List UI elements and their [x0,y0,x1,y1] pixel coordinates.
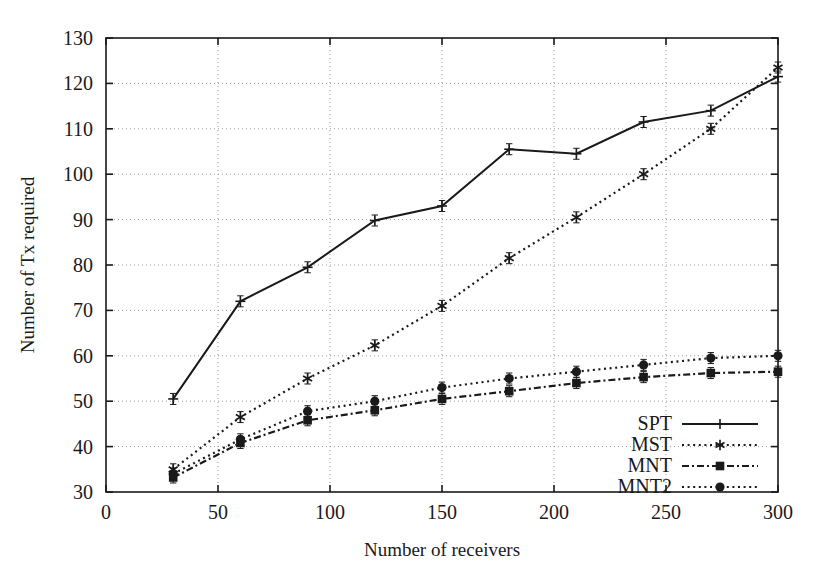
data-point-marker-circle [773,351,782,360]
data-point-marker-circle [236,435,245,444]
data-point-marker-star [572,212,581,222]
data-point-marker-plus [571,149,581,159]
y-axis-tick-label: 120 [63,72,93,94]
series-line-spt [173,77,778,399]
x-axis-tick-label: 200 [539,501,569,523]
y-axis-tick-label: 70 [73,299,93,321]
x-axis-tick-label: 50 [208,501,228,523]
chart-canvas: 3040506070809010011012013005010015020025… [0,0,816,586]
data-point-marker-square [505,387,514,396]
data-point-marker-square [774,367,783,376]
series-spt [168,71,783,404]
data-point-marker-plus [715,419,725,429]
y-axis-tick-label: 50 [73,390,93,412]
x-axis-title: Number of receivers [364,539,520,560]
data-series-layer [168,62,783,483]
series-mnt2 [169,350,783,479]
data-point-marker-star [706,124,715,134]
data-point-marker-plus [706,106,716,116]
data-point-marker-plus [639,117,649,127]
x-axis-tick-label: 150 [427,501,457,523]
data-point-marker-star [370,340,379,350]
y-axis-tick-label: 80 [73,254,93,276]
legend-label-mst: MST [631,433,672,455]
series-line-mst [173,68,778,470]
data-point-marker-circle [715,482,724,491]
data-point-marker-square [572,379,581,388]
data-point-marker-star [303,373,312,383]
x-axis-tick-label: 100 [315,501,345,523]
y-axis-tick-label: 30 [73,481,93,503]
legend-label-mnt: MNT [628,454,672,476]
y-axis-tick-label: 100 [63,163,93,185]
data-point-marker-circle [706,353,715,362]
x-axis-tick-label: 0 [101,501,111,523]
data-point-marker-circle [303,407,312,416]
data-point-marker-square [716,462,725,471]
chart-figure: 3040506070809010011012013005010015020025… [0,0,816,586]
chart-legend: SPTMSTMNTMNT2 [618,412,758,497]
data-point-marker-star [505,253,514,263]
data-point-marker-circle [639,360,648,369]
y-axis-tick-label: 110 [64,118,93,140]
y-axis-tick-label: 60 [73,345,93,367]
y-axis-title: Number of Tx required [17,176,38,353]
data-point-marker-star [437,301,446,311]
legend-label-mnt2: MNT2 [618,475,672,497]
series-mst [169,62,783,475]
data-point-marker-circle [370,397,379,406]
data-point-marker-square [639,373,648,382]
y-axis-tick-label: 130 [63,27,93,49]
x-axis-tick-label: 250 [651,501,681,523]
data-point-marker-circle [169,469,178,478]
axis-tick-labels: 3040506070809010011012013005010015020025… [63,27,793,523]
data-point-marker-square [371,406,380,415]
data-point-marker-square [303,416,312,425]
data-point-marker-circle [505,374,514,383]
data-point-marker-circle [572,367,581,376]
grid-lines [106,38,778,492]
x-axis-tick-label: 300 [763,501,793,523]
legend-label-spt: SPT [638,412,672,434]
data-point-marker-square [707,369,716,378]
data-point-marker-circle [437,383,446,392]
data-point-marker-square [438,395,447,404]
y-axis-tick-label: 40 [73,436,93,458]
y-axis-tick-label: 90 [73,209,93,231]
